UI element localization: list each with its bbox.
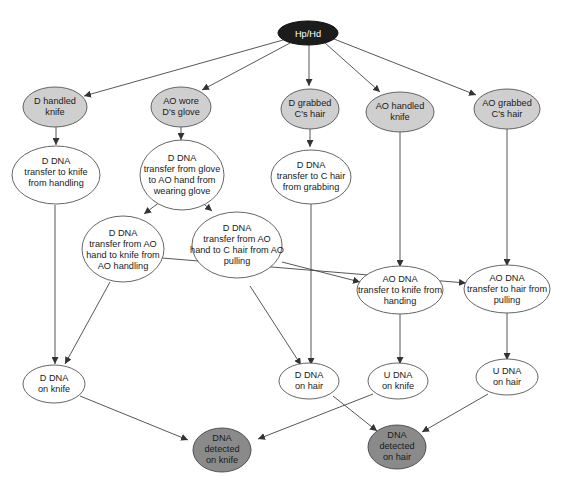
edge-ao-hair-to-d-dna-hair: [250, 286, 301, 365]
node-d-transfer-ao-hair[interactable]: D DNA transfer from AO hand to C hair fr…: [190, 212, 284, 278]
node-label: D handled: [34, 96, 76, 106]
node-label: on hair: [383, 452, 411, 462]
node-label: D DNA: [297, 160, 326, 170]
node-label: transfer to knife: [24, 167, 87, 177]
node-label: transfer from AO: [203, 234, 270, 244]
node-label: D DNA: [40, 373, 69, 383]
edge-d-dna-knife-to-detected: [80, 396, 188, 440]
node-label: transfer to knife from: [358, 285, 443, 295]
node-ao-transfer-knife[interactable]: AO DNA transfer to knife from handing: [357, 266, 443, 314]
edge-u-dna-hair-to-detected: [422, 394, 488, 432]
node-label: AO grabbed: [482, 98, 532, 108]
node-label: Hp/Hd: [295, 29, 321, 39]
node-d-transfer-hair[interactable]: D DNA transfer to C hair from grabbing: [271, 150, 351, 204]
node-label: detected: [204, 444, 239, 454]
node-d-transfer-knife[interactable]: D DNA transfer to knife from handling: [12, 146, 100, 204]
node-label: D DNA: [223, 223, 252, 233]
node-d-handled-knife[interactable]: D handled knife: [23, 87, 87, 127]
node-label: DNA: [387, 430, 407, 440]
node-ao-grabbed-hair[interactable]: AO grabbed C's hair: [474, 89, 540, 129]
node-label: D DNA: [168, 153, 197, 163]
node-label: U DNA: [493, 366, 522, 376]
node-d-transfer-glove[interactable]: D DNA transfer from glove to AO hand fro…: [140, 140, 224, 210]
edge-ao-knife-to-d-dna-knife: [65, 282, 110, 364]
node-label: on knife: [38, 384, 70, 394]
node-label: hand to C hair from AO: [190, 245, 284, 255]
node-detected-knife[interactable]: DNA detected on knife: [193, 428, 251, 472]
node-u-dna-hair[interactable]: U DNA on hair: [476, 359, 538, 395]
node-d-grabbed-hair[interactable]: D grabbed C's hair: [281, 89, 339, 129]
node-label: to AO hand from: [149, 175, 216, 185]
node-label: D DNA: [42, 156, 71, 166]
node-label: U DNA: [384, 370, 413, 380]
node-label: AO handling: [98, 261, 149, 271]
node-label: AO handled: [376, 101, 425, 111]
node-label: knife: [390, 112, 409, 122]
edge-root-ao-grabbed-hair: [334, 39, 476, 95]
edge-u-dna-knife-to-detected: [258, 394, 373, 439]
node-label: D DNA: [109, 228, 138, 238]
node-label: wearing glove: [153, 186, 211, 196]
node-label: pulling: [494, 295, 521, 305]
node-label: knife: [45, 107, 64, 117]
node-label: AO DNA: [382, 274, 418, 284]
node-detected-hair[interactable]: DNA detected on hair: [368, 425, 426, 469]
node-label: pulling: [224, 256, 251, 266]
node-label: DNA: [212, 433, 232, 443]
node-label: hand to knife from: [86, 250, 160, 260]
node-label: D grabbed: [289, 98, 332, 108]
node-label: D's glove: [162, 107, 200, 117]
network-diagram: Hp/Hd D handled knife AO wore D's glove …: [0, 0, 564, 485]
node-label: C's hair: [492, 109, 523, 119]
edge-root-ao-handled-knife: [325, 43, 380, 92]
node-label: on knife: [382, 381, 414, 391]
node-label: on knife: [206, 455, 238, 465]
node-label: from handling: [28, 178, 84, 188]
node-ao-transfer-hair[interactable]: AO DNA transfer to hair from pulling: [464, 265, 550, 313]
node-ao-wore-glove[interactable]: AO wore D's glove: [151, 87, 211, 127]
node-u-dna-knife[interactable]: U DNA on knife: [368, 363, 428, 399]
node-label: on hair: [493, 377, 521, 387]
node-label: transfer to C hair: [277, 171, 345, 181]
node-d-transfer-ao-knife[interactable]: D DNA transfer from AO hand to knife fro…: [82, 216, 164, 282]
node-ao-handled-knife[interactable]: AO handled knife: [366, 92, 434, 132]
node-label: transfer from glove: [144, 164, 221, 174]
node-label: AO DNA: [489, 273, 525, 283]
node-label: detected: [379, 441, 414, 451]
node-label: C's hair: [295, 109, 326, 119]
node-label: D DNA: [295, 370, 324, 380]
node-hp-hd[interactable]: Hp/Hd: [278, 21, 338, 45]
edge-ao-hair-to-ao-transfer-knife: [282, 262, 360, 282]
node-label: handing: [384, 296, 417, 306]
node-label: transfer to hair from: [467, 284, 548, 294]
node-d-dna-knife[interactable]: D DNA on knife: [23, 365, 85, 403]
node-label: AO wore: [163, 96, 199, 106]
node-label: on hair: [295, 381, 323, 391]
node-label: from grabbing: [283, 182, 340, 192]
node-label: transfer from AO: [89, 239, 156, 249]
node-d-dna-hair[interactable]: D DNA on hair: [279, 363, 339, 399]
